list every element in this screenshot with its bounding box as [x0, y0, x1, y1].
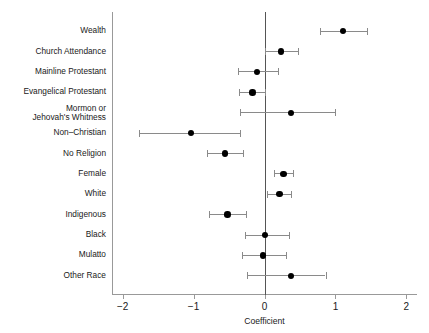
x-tick-mark	[335, 295, 336, 299]
estimate-point	[262, 232, 268, 238]
estimate-point	[224, 211, 230, 217]
plot-panel: −2−1012 Coefficient	[112, 12, 417, 295]
y-axis-label: Other Race	[64, 271, 106, 280]
x-tick-mark	[265, 295, 266, 299]
x-tick-mark	[406, 295, 407, 299]
x-tick-label: 0	[262, 301, 268, 312]
ci-lower-cap	[267, 191, 268, 198]
ci-upper-cap	[286, 252, 287, 259]
coefficient-plot: WealthChurch AttendanceMainline Protesta…	[0, 0, 429, 333]
ci-lower-cap	[274, 170, 275, 177]
estimate-point	[188, 130, 194, 136]
ci-lower-cap	[139, 130, 140, 137]
confidence-interval-bar	[247, 275, 326, 276]
y-axis-label: White	[85, 190, 106, 199]
ci-lower-cap	[245, 232, 246, 239]
ci-lower-cap	[239, 89, 240, 96]
x-tick-label: −2	[117, 301, 128, 312]
x-tick-label: 1	[333, 301, 339, 312]
y-axis-label: Non–Christian	[53, 128, 106, 137]
x-tick-mark	[123, 295, 124, 299]
ci-upper-cap	[326, 272, 327, 279]
x-axis-title: Coefficient	[112, 316, 417, 326]
ci-upper-cap	[265, 89, 266, 96]
ci-upper-cap	[240, 130, 241, 137]
y-axis-label: Church Attendance	[35, 47, 106, 56]
ci-upper-cap	[278, 68, 279, 75]
estimate-point	[340, 28, 346, 34]
estimate-point	[288, 273, 294, 279]
estimate-point	[288, 110, 294, 116]
y-axis-label: Mulatto	[79, 251, 106, 260]
estimate-point	[280, 171, 286, 177]
estimate-point	[278, 48, 284, 54]
y-axis-category-labels: WealthChurch AttendanceMainline Protesta…	[0, 0, 112, 333]
ci-upper-cap	[298, 48, 299, 55]
y-axis-label: Indigenous	[65, 210, 106, 219]
ci-upper-cap	[243, 150, 244, 157]
ci-lower-cap	[265, 48, 266, 55]
ci-lower-cap	[238, 68, 239, 75]
ci-lower-cap	[320, 28, 321, 35]
estimate-point	[222, 150, 228, 156]
ci-upper-cap	[335, 109, 336, 116]
estimate-point	[276, 191, 282, 197]
y-axis-line	[112, 12, 113, 295]
y-axis-label: Wealth	[80, 26, 106, 35]
x-tick-mark	[194, 295, 195, 299]
ci-lower-cap	[209, 211, 210, 218]
y-axis-label: Evangelical Protestant	[23, 88, 106, 97]
ci-lower-cap	[242, 252, 243, 259]
y-axis-label: Black	[86, 230, 106, 239]
ci-upper-cap	[367, 28, 368, 35]
ci-lower-cap	[207, 150, 208, 157]
y-axis-label: Mormon or Jehovah's Whitness	[32, 103, 106, 122]
ci-upper-cap	[289, 232, 290, 239]
estimate-point	[254, 69, 260, 75]
ci-lower-cap	[240, 109, 241, 116]
x-tick-label: −1	[188, 301, 199, 312]
ci-lower-cap	[247, 272, 248, 279]
estimate-point	[260, 252, 266, 258]
y-axis-label: No Religion	[63, 149, 106, 158]
x-tick-label: 2	[404, 301, 410, 312]
ci-upper-cap	[291, 191, 292, 198]
y-axis-label: Mainline Protestant	[35, 67, 106, 76]
y-axis-label: Female	[78, 169, 106, 178]
estimate-point	[249, 89, 255, 95]
ci-upper-cap	[293, 170, 294, 177]
ci-upper-cap	[246, 211, 247, 218]
